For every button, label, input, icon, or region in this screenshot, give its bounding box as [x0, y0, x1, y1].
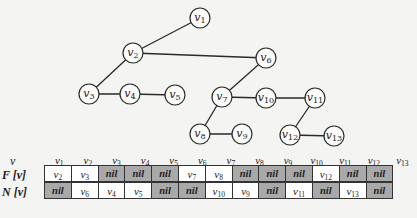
table-cell: nil	[366, 165, 394, 182]
node-v4: v4	[120, 84, 140, 104]
table-cell: nil	[232, 165, 260, 182]
table-cell: v8	[205, 165, 233, 182]
table-cell: nil	[151, 182, 179, 199]
tree-graph: v1v2v3v4v5v6v7v10v11v8v9v12v13	[0, 0, 417, 150]
edge-v2-v6	[133, 53, 266, 58]
table-cell: nil	[366, 182, 394, 199]
table-cell: nil	[339, 165, 367, 182]
f-row-label: F [v]	[2, 166, 42, 184]
table-cell: v7	[178, 165, 206, 182]
node-v12: v12	[280, 125, 300, 145]
graph-nodes: v1v2v3v4v5v6v7v10v11v8v9v12v13	[79, 8, 344, 146]
node-v9: v9	[232, 124, 252, 144]
table-cell: nil	[285, 165, 313, 182]
table-cell: v11	[285, 182, 313, 199]
table-cell: v9	[232, 182, 260, 199]
node-v1: v1	[190, 8, 210, 28]
n-row-cells: nilv6v4v5nilnilv10v9nilv11nilv13nil	[45, 183, 393, 199]
table-cell: v13	[339, 182, 367, 199]
node-v3: v3	[79, 84, 99, 104]
table-cell: v4	[98, 182, 126, 199]
node-v10: v10	[256, 88, 276, 108]
n-row-label: N [v]	[2, 183, 42, 201]
table-cell: nil	[312, 182, 340, 199]
table-cell: nil	[151, 165, 179, 182]
table-cell: nil	[124, 165, 152, 182]
node-v5: v5	[165, 85, 185, 105]
node-v7: v7	[212, 87, 232, 107]
node-v8: v8	[190, 124, 210, 144]
node-v11: v11	[305, 88, 325, 108]
node-v2: v2	[123, 43, 143, 63]
table-cell: nil	[44, 182, 72, 199]
table-cell: nil	[178, 182, 206, 199]
node-v6: v6	[256, 48, 276, 68]
edge-v1-v2	[133, 18, 200, 53]
table-cell: v5	[124, 182, 152, 199]
f-row-cells: v2v3nilnilnilv7v8nilnilnilv12nilnil	[45, 166, 393, 182]
table-cell: nil	[258, 182, 286, 199]
table-cell: nil	[98, 165, 126, 182]
table-cell: v10	[205, 182, 233, 199]
graph-edges	[89, 18, 334, 136]
node-v13: v13	[324, 126, 344, 146]
table-cell: v6	[71, 182, 99, 199]
table-cell: nil	[258, 165, 286, 182]
table-cell: v12	[312, 165, 340, 182]
table-cell: v2	[44, 165, 72, 182]
table-cell: v3	[71, 165, 99, 182]
